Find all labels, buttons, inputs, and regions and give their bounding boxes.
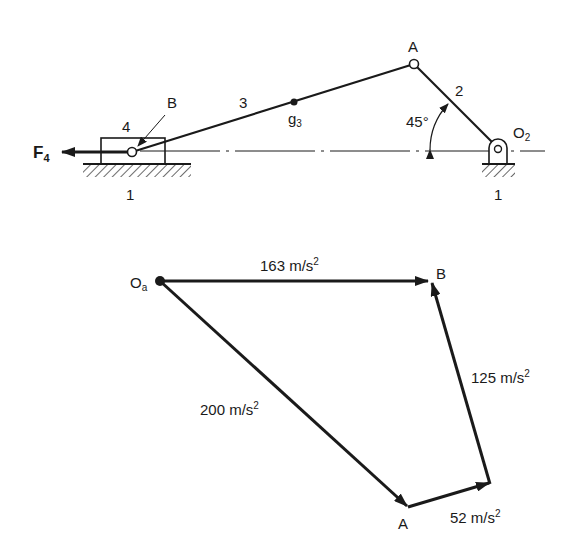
ground-left-label: 1 [126,186,134,203]
pin-b [128,148,137,157]
force-label: F4 [33,143,50,164]
vector-ab-normal [408,483,489,507]
center-of-gravity-label: g3 [288,110,302,129]
angle-label: 45° [406,113,429,130]
vector-ab-tangential-value: 125 m/s2 [471,368,530,386]
polygon-point-b-label: B [436,265,446,282]
b-pointer-arrow [138,115,165,146]
acceleration-polygon: Oa B A 163 m/s2 200 m/s2 52 m/s2 125 m/s… [130,256,530,532]
origin-label: Oa [130,274,148,293]
pivot-label: O2 [513,124,531,143]
vector-ab-normal-value: 52 m/s2 [450,508,501,526]
point-a-label: A [408,38,418,55]
ground-right-hatch [482,165,515,177]
slider-crank-diagram: F4 4 B 3 g3 A 2 45° O2 1 1 Oa B A 163 m/… [0,0,570,549]
mechanism: F4 4 B 3 g3 A 2 45° O2 1 1 [33,38,545,203]
slider-link-label: 4 [122,118,130,135]
pivot-pin [495,146,502,153]
center-of-gravity-dot [291,99,298,106]
vector-oa-a [160,281,407,506]
ground-left-hatch [83,165,191,177]
ground-right-label: 1 [494,186,502,203]
coupler-link-label: 3 [239,94,247,111]
vector-oa-b-value: 163 m/s2 [260,256,319,274]
origin-dot [155,276,165,286]
pin-a [410,60,419,69]
crank-link [414,64,497,147]
vector-oa-a-value: 200 m/s2 [200,400,259,418]
point-b-label: B [167,94,177,111]
polygon-point-a-label: A [398,515,408,532]
angle-arc [430,104,448,150]
crank-link-label: 2 [455,82,463,99]
